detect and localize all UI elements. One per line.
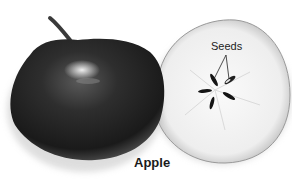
apple-highlight [64, 60, 100, 80]
whole-apple [7, 18, 164, 172]
figure-caption: Apple [134, 155, 170, 170]
apple-diagram: Seeds Apple [0, 0, 292, 181]
apple-stem [50, 18, 70, 40]
apple-illustration [0, 0, 292, 181]
seeds-label: Seeds [211, 40, 242, 52]
